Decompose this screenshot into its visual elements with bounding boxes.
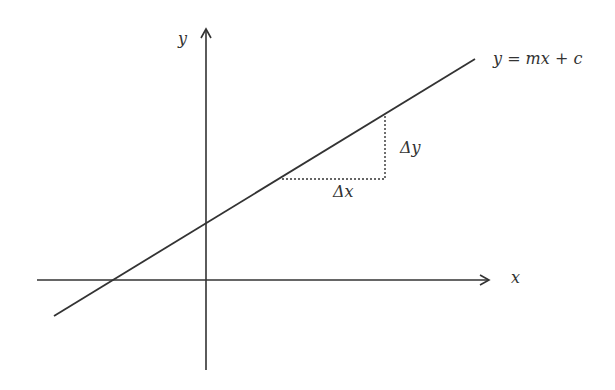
line-y-mx-c <box>54 59 475 316</box>
y-axis-label: y <box>178 29 187 48</box>
delta-y-label: Δy <box>400 138 421 157</box>
delta-x-label: Δx <box>333 182 354 201</box>
x-axis-label: x <box>511 268 520 287</box>
equation-label: y = mx + c <box>493 49 582 68</box>
